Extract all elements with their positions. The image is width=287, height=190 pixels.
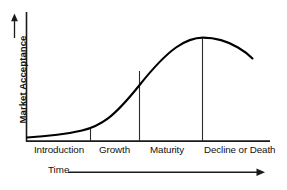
x-axis-label: Time [48, 164, 69, 175]
y-axis-label: Market Acceptance [17, 20, 28, 140]
stage-label-maturity: Maturity [150, 144, 184, 155]
right-arrow-icon [68, 168, 265, 176]
product-life-cycle-chart: Market Acceptance Introduction Growth Ma… [0, 0, 287, 190]
stage-label-growth: Growth [99, 144, 130, 155]
chart-canvas [0, 0, 287, 190]
stage-label-introduction: Introduction [34, 144, 84, 155]
stage-label-decline-or-death: Decline or Death [204, 144, 275, 155]
